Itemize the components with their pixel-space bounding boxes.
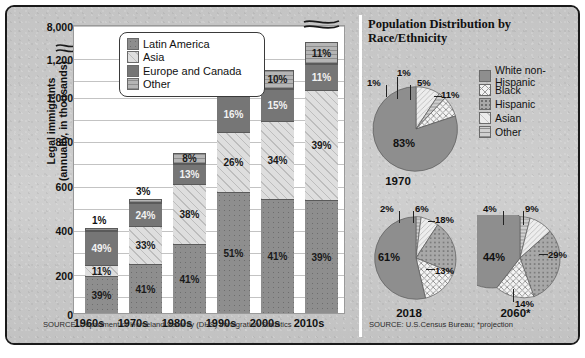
bar-2010s-label-asia: 39% bbox=[311, 140, 331, 151]
right-panel-title-line1: Population Distribution by bbox=[368, 17, 578, 31]
bar-2010s[interactable]: 11% 11% 39% 39% bbox=[305, 42, 338, 313]
y-tick-8000: 8,000 bbox=[27, 21, 73, 33]
bar-1980s-label-europe: 13% bbox=[179, 169, 199, 180]
bar-1970s-label-europe: 24% bbox=[135, 210, 155, 221]
bar-1980s[interactable]: 8% 13% 38% 41% bbox=[173, 153, 206, 313]
legend-item-other[interactable]: Other bbox=[127, 78, 258, 92]
legend-label-other-race: Other bbox=[495, 126, 521, 138]
bar-2000s-seg-asia: 34% bbox=[261, 121, 294, 199]
legend-swatch-europe-canada-icon bbox=[127, 65, 139, 77]
pie-1970-label-white: 83% bbox=[393, 137, 415, 149]
legend-label-hispanic: Hispanic bbox=[495, 98, 535, 110]
y-axis-title: Legal immigrants (annually, in thousands… bbox=[45, 61, 69, 181]
legend-item-europe-canada[interactable]: Europe and Canada bbox=[127, 64, 258, 78]
left-panel-bar-chart: Legal immigrants (annually, in thousands… bbox=[11, 13, 357, 339]
y-tick-800: 800 bbox=[27, 136, 73, 148]
pie-2060-caption: 2060* bbox=[463, 307, 568, 319]
y-tick-600: 600 bbox=[27, 181, 73, 193]
bar-1960s-label-latin: 39% bbox=[91, 290, 111, 301]
pie-2018-wrap: 2% 6% 18% 13% 61% 2018 bbox=[373, 203, 473, 323]
pie-2018-label-other: 2% bbox=[380, 203, 394, 214]
bar-1970s-label-other: 3% bbox=[136, 186, 150, 197]
bar-2000s-label-latin: 41% bbox=[267, 251, 287, 262]
bar-2010s-seg-asia: 39% bbox=[305, 90, 338, 200]
pie-chart-legend: White non-Hispanic Black Hispanic Asian … bbox=[479, 69, 580, 139]
legend-label-other: Other bbox=[143, 78, 171, 90]
legend-item-asian[interactable]: Asian bbox=[479, 111, 580, 125]
bar-2010s-seg-latin: 39% bbox=[305, 200, 338, 313]
bar-2010s-label-europe: 11% bbox=[312, 72, 331, 83]
bar-1980s-seg-latin: 41% bbox=[173, 244, 206, 313]
legend-label-europe-canada: Europe and Canada bbox=[143, 65, 241, 77]
bar-1980s-label-other: 8% bbox=[182, 153, 196, 164]
bar-2000s-seg-europe: 15% bbox=[261, 89, 294, 121]
pie-2018-label-white: 61% bbox=[378, 251, 400, 263]
bar-1970s[interactable]: 3% 24% 33% 41% bbox=[129, 199, 162, 313]
bar-2010s-label-latin: 39% bbox=[311, 252, 331, 263]
gridline bbox=[74, 209, 344, 210]
pie-2060-leader-asian bbox=[523, 211, 524, 225]
y-tick-1200: 1,200 bbox=[27, 54, 73, 66]
bar-2010s-seg-other: 11% bbox=[305, 42, 338, 64]
bar-1960s-seg-latin: 39% bbox=[85, 276, 118, 313]
legend-swatch-asia-icon bbox=[127, 51, 139, 63]
bar-1960s[interactable]: 1% 49% 11% 39% bbox=[85, 228, 118, 313]
figure-frame: Legal immigrants (annually, in thousands… bbox=[5, 5, 580, 345]
pie-1970-leader-other bbox=[397, 77, 398, 99]
cut-off-figure-title bbox=[0, 0, 585, 3]
legend-item-latin-america[interactable]: Latin America bbox=[127, 37, 258, 51]
pie-1970-leader-hispanic bbox=[434, 96, 442, 97]
bar-1970s-label-latin: 41% bbox=[135, 284, 155, 295]
pie-2060-wrap: 4% 9% 29% 14% 44% 2060* bbox=[473, 203, 578, 323]
y-tick-400: 400 bbox=[27, 225, 73, 237]
bar-1970s-seg-asia: 33% bbox=[129, 226, 162, 264]
bar-2000s[interactable]: 10% 15% 34% 41% bbox=[261, 70, 294, 313]
bar-2010s-label-other: 11% bbox=[312, 48, 331, 59]
pie-2060-leader-hispanic bbox=[539, 254, 548, 255]
pie-2018-leader-asian bbox=[413, 211, 414, 223]
gridline bbox=[74, 120, 344, 121]
bar-1970s-seg-europe: 24% bbox=[129, 203, 162, 226]
legend-item-asia[interactable]: Asia bbox=[127, 51, 258, 65]
bar-1980s-label-asia: 38% bbox=[179, 209, 199, 220]
legend-item-white-non-hispanic[interactable]: White non-Hispanic bbox=[479, 69, 580, 83]
bar-1960s-label-other: 1% bbox=[92, 215, 106, 226]
pie-1970-label-asian: 1% bbox=[367, 77, 381, 88]
legend-item-other-race[interactable]: Other bbox=[479, 125, 580, 139]
bar-2000s-label-asia: 34% bbox=[267, 155, 287, 166]
bar-1990s[interactable]: 7% 16% 26% 51% bbox=[217, 82, 250, 313]
gridline bbox=[74, 164, 344, 165]
y-axis-title-line1: Legal immigrants bbox=[45, 61, 57, 181]
bar-1990s-label-europe: 16% bbox=[223, 109, 243, 120]
bar-2010s-break-squiggle bbox=[303, 18, 340, 32]
pie-2018-caption: 2018 bbox=[359, 307, 459, 319]
legend-swatch-latin-america-icon bbox=[127, 38, 139, 50]
pie-2060-label-hispanic: 29% bbox=[548, 249, 567, 260]
pie-2018-leader-black bbox=[426, 269, 435, 270]
bar-1990s-label-asia: 26% bbox=[223, 157, 243, 168]
pie-2060-leader-black bbox=[513, 289, 514, 302]
bar-1960s-label-asia: 11% bbox=[92, 266, 111, 277]
legend-label-asian: Asian bbox=[495, 112, 521, 124]
pie-2060-leader-other bbox=[503, 211, 504, 225]
bar-1960s-label-europe: 49% bbox=[91, 243, 111, 254]
pie-1970-label-hispanic: 11% bbox=[441, 89, 460, 100]
pie-2060-label-other: 4% bbox=[483, 203, 497, 214]
figure-root: Legal immigrants (annually, in thousands… bbox=[0, 0, 585, 358]
right-source-note: SOURCE: U.S.Census Bureau; *projection bbox=[369, 320, 513, 329]
pie-2060-label-white: 44% bbox=[483, 251, 505, 263]
bar-2000s-label-europe: 15% bbox=[267, 100, 287, 111]
legend-swatch-other-race-icon bbox=[479, 126, 491, 138]
bar-1970s-seg-latin: 41% bbox=[129, 264, 162, 313]
pie-2060-label-asian: 9% bbox=[525, 203, 539, 214]
legend-item-hispanic[interactable]: Hispanic bbox=[479, 97, 580, 111]
pie-2018-leader-other bbox=[399, 211, 400, 223]
pie-2018-label-asian: 6% bbox=[415, 203, 429, 214]
gridline bbox=[74, 98, 344, 99]
left-source-note: SOURCE: Department of Homeland Security … bbox=[43, 320, 292, 329]
legend-swatch-white-non-hispanic-icon bbox=[479, 70, 491, 82]
bar-2010s-seg-europe: 11% bbox=[305, 64, 338, 90]
y-tick-200: 200 bbox=[27, 270, 73, 282]
bar-1980s-seg-europe: 13% bbox=[173, 164, 206, 184]
bar-1980s-seg-other: 8% bbox=[173, 153, 206, 164]
